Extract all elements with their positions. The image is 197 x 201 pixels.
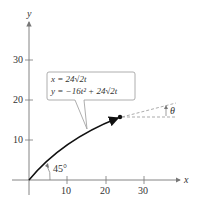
x-axis-label: x: [183, 174, 189, 185]
launch-angle-arrowhead-icon: [45, 163, 49, 168]
y-tick-label-10: 10: [13, 134, 23, 145]
theta-label: θ: [170, 105, 175, 116]
x-tick-label-10: 10: [61, 185, 71, 196]
x-tick-label-20: 20: [100, 185, 110, 196]
plot-svg: x y 10 20 30 10 20 30 θ 45°: [0, 0, 197, 201]
projectile-point: [118, 115, 122, 119]
y-tick-label-30: 30: [13, 54, 23, 65]
callout-equation-y: y = −16t² + 24√2t: [51, 86, 117, 97]
projectile-diagram: x y 10 20 30 10 20 30 θ 45° x = 24√2t y …: [0, 0, 197, 201]
theta-arrowhead-icon: [164, 105, 168, 109]
callout-equation-x: x = 24√2t: [51, 74, 87, 85]
dashed-incline: [122, 103, 176, 117]
y-axis-label: y: [26, 8, 32, 19]
launch-angle-arc: [47, 166, 50, 180]
y-tick-label-20: 20: [13, 94, 23, 105]
launch-angle-label: 45°: [53, 163, 67, 174]
projectile-curve: [29, 118, 118, 180]
x-tick-label-30: 30: [138, 185, 148, 196]
